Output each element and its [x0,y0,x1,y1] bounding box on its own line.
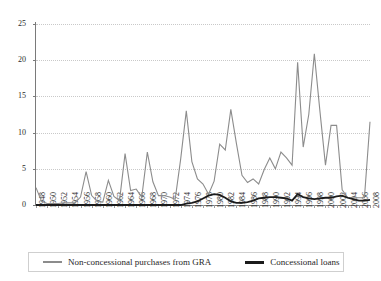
series-line-concessional [36,194,370,205]
legend-label-concessional: Concessional loans [270,257,339,267]
legend-item-non-concessional: Non-concessional purchases from GRA [43,257,211,267]
series-line-non-concessional [36,54,370,204]
legend-swatch-icon-concessional [245,261,264,264]
chart-legend: Non-concessional purchases from GRA Conc… [28,252,344,272]
legend-label-non-concessional: Non-concessional purchases from GRA [68,257,211,267]
legend-swatch-icon-non-concessional [43,261,62,263]
legend-item-concessional: Concessional loans [245,257,339,267]
